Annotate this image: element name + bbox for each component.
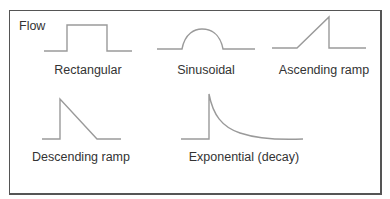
ascending-ramp-waveform bbox=[272, 17, 366, 48]
exponential-decay-label: Exponential (decay) bbox=[189, 150, 299, 164]
descending-ramp-label: Descending ramp bbox=[32, 150, 130, 164]
descending-ramp-waveform bbox=[42, 99, 121, 139]
waveform-drawings bbox=[0, 0, 390, 199]
sinusoidal-label: Sinusoidal bbox=[177, 63, 235, 77]
exponential-decay-waveform bbox=[181, 94, 303, 139]
ascending-ramp-label: Ascending ramp bbox=[279, 63, 369, 77]
rectangular-waveform bbox=[44, 25, 132, 51]
sinusoidal-waveform bbox=[157, 29, 255, 49]
rectangular-label: Rectangular bbox=[54, 63, 121, 77]
